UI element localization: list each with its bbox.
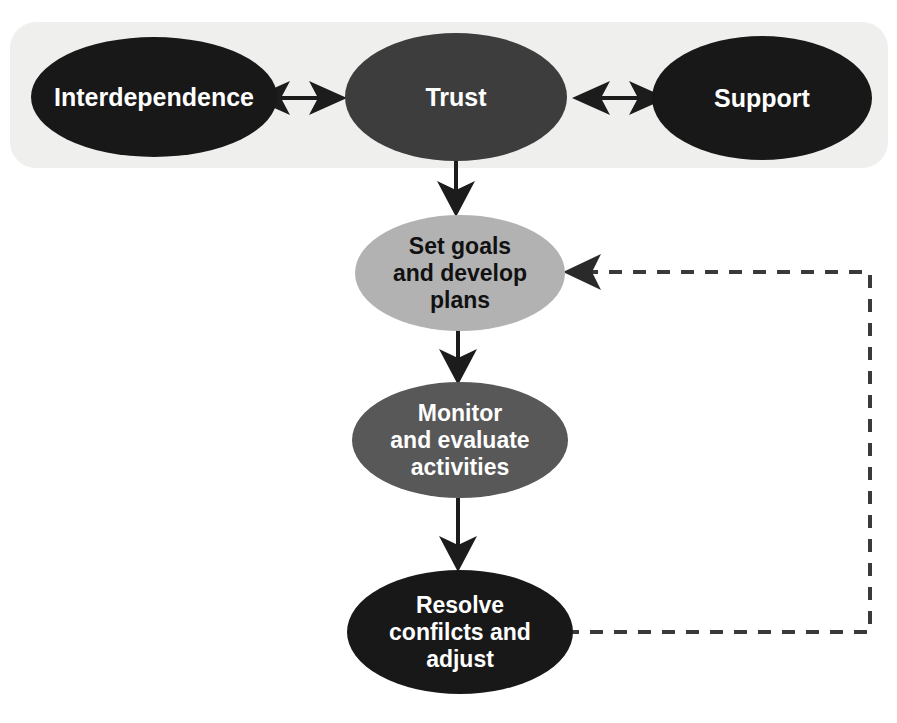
node-trust-label: Trust <box>425 83 487 111</box>
node-set-goals-label-line-3: plans <box>430 287 490 313</box>
node-support[interactable]: Support <box>652 36 872 160</box>
node-set-goals[interactable]: Set goals and develop plans <box>355 215 565 331</box>
node-support-label: Support <box>714 84 810 112</box>
node-monitor-evaluate-label-line-1: Monitor <box>418 400 502 426</box>
node-set-goals-label-line-1: Set goals <box>409 233 511 259</box>
node-resolve-conflicts[interactable]: Resolve confilcts and adjust <box>347 570 573 694</box>
edge-resolve-feedback <box>563 254 870 632</box>
feedback-dashed-path <box>566 272 870 632</box>
node-monitor-evaluate[interactable]: Monitor and evaluate activities <box>352 382 568 498</box>
diagram-canvas: Interdependence Trust Support Set goals … <box>0 0 897 723</box>
node-monitor-evaluate-label-line-2: and evaluate <box>390 427 529 453</box>
flowchart-diagram: Interdependence Trust Support Set goals … <box>0 0 897 723</box>
node-resolve-conflicts-label-line-1: Resolve <box>416 592 504 618</box>
node-trust[interactable]: Trust <box>345 33 567 161</box>
node-interdependence-label: Interdependence <box>54 83 254 111</box>
node-set-goals-label-line-2: and develop <box>393 260 527 286</box>
node-monitor-evaluate-label-line-3: activities <box>411 454 509 480</box>
node-interdependence[interactable]: Interdependence <box>31 37 277 157</box>
node-resolve-conflicts-label-line-3: adjust <box>426 646 494 672</box>
edge-set-goals-monitor <box>439 330 477 385</box>
edge-monitor-resolve <box>439 498 477 572</box>
node-resolve-conflicts-label-line-2: confilcts and <box>389 619 531 645</box>
